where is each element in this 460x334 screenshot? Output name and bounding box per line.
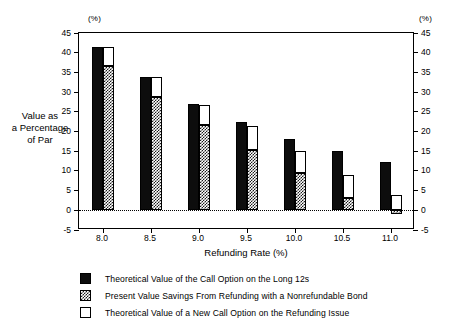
- y-tick-mark-left: [74, 111, 79, 112]
- x-axis-title: Refunding Rate (%): [78, 247, 414, 258]
- y-tick-label-right: 25: [421, 106, 430, 116]
- x-tick-label-8.5: 8.5: [130, 233, 170, 243]
- x-tick-label-8.0: 8.0: [82, 233, 122, 243]
- bar-new-call-option-9.0: [199, 105, 210, 125]
- y-tick-label-right: 5: [421, 185, 426, 195]
- bar-pv-savings-8.0: [103, 66, 114, 210]
- y-tick-label-left: 10: [62, 165, 71, 175]
- bar-new-call-option-11.0: [391, 195, 402, 211]
- y-tick-label-right: 45: [421, 28, 430, 38]
- y-tick-label-right: 10: [421, 165, 430, 175]
- y-tick-mark-right: [413, 111, 418, 112]
- y-tick-label-right: 30: [421, 87, 430, 97]
- checkered-swatch: [80, 290, 91, 301]
- bar-new-call-option-8.5: [151, 77, 162, 97]
- legend-label-1: Present Value Savings From Refunding wit…: [105, 291, 368, 301]
- y-tick-mark-left: [74, 52, 79, 53]
- y-tick-label-left: 40: [62, 47, 71, 57]
- plot-area: -5-5005510101515202025253030353540404545: [78, 32, 414, 229]
- y-tick-mark-left: [74, 151, 79, 152]
- y-tick-mark-right: [413, 92, 418, 93]
- bar-pv-savings-10.5: [343, 198, 354, 211]
- bar-pv-savings-9.0: [199, 125, 210, 210]
- zero-reference-line: [79, 210, 413, 211]
- y-tick-mark-right: [413, 190, 418, 191]
- bar-new-call-option-10.0: [295, 151, 306, 173]
- bar-call-option-9.5: [236, 122, 247, 210]
- legend-item-1: Present Value Savings From Refunding wit…: [80, 287, 420, 304]
- bar-call-option-8.5: [140, 77, 151, 210]
- bar-call-option-9.0: [188, 104, 199, 210]
- solid-black-swatch: [80, 273, 91, 284]
- y-tick-label-right: 20: [421, 126, 430, 136]
- y-tick-mark-right: [413, 72, 418, 73]
- y-tick-label-left: 5: [66, 185, 71, 195]
- bar-call-option-11.0: [380, 162, 391, 210]
- x-tick-label-9.5: 9.5: [226, 233, 266, 243]
- y-tick-mark-left: [74, 210, 79, 211]
- white-outline-swatch: [80, 307, 91, 318]
- plot-inner-surface: -5-5005510101515202025253030353540404545: [79, 33, 413, 228]
- legend-label-2: Theoretical Value of a New Call Option o…: [105, 308, 349, 318]
- y-tick-label-right: 0: [421, 205, 426, 215]
- y-tick-label-right: 15: [421, 146, 430, 156]
- y-tick-label-left: 30: [62, 87, 71, 97]
- bar-new-call-option-9.5: [247, 126, 258, 150]
- y-tick-mark-right: [413, 33, 418, 34]
- y-tick-label-left: 25: [62, 106, 71, 116]
- y-tick-mark-left: [74, 170, 79, 171]
- y-tick-label-left: 15: [62, 146, 71, 156]
- bar-pv-savings-11.0: [391, 210, 402, 214]
- y-tick-label-left: 20: [62, 126, 71, 136]
- y-tick-mark-right: [413, 151, 418, 152]
- bar-pv-savings-8.5: [151, 97, 162, 210]
- y-tick-mark-right: [413, 52, 418, 53]
- bar-pv-savings-9.5: [247, 150, 258, 210]
- legend-item-2: Theoretical Value of a New Call Option o…: [80, 304, 420, 321]
- y-tick-mark-right: [413, 170, 418, 171]
- bar-new-call-option-8.0: [103, 47, 114, 67]
- chart-legend: Theoretical Value of the Call Option on …: [80, 270, 420, 321]
- y-tick-label-right: 40: [421, 47, 430, 57]
- y-tick-mark-right: [413, 210, 418, 211]
- bar-pv-savings-10.0: [295, 173, 306, 210]
- y-tick-mark-right: [413, 131, 418, 132]
- y-tick-mark-left: [74, 190, 79, 191]
- x-tick-label-10.5: 10.5: [322, 233, 362, 243]
- legend-item-0: Theoretical Value of the Call Option on …: [80, 270, 420, 287]
- x-tick-label-10.0: 10.0: [274, 233, 314, 243]
- y-tick-label-left: 35: [62, 67, 71, 77]
- chart-figure: (%) (%) Value as a Percentage of Par -5-…: [0, 0, 460, 334]
- right-axis-unit-label: (%): [419, 14, 432, 23]
- y-tick-mark-left: [74, 72, 79, 73]
- y-tick-mark-left: [74, 131, 79, 132]
- y-tick-mark-left: [74, 92, 79, 93]
- bar-call-option-10.5: [332, 151, 343, 210]
- y-tick-label-right: 35: [421, 67, 430, 77]
- x-tick-label-9.0: 9.0: [178, 233, 218, 243]
- y-tick-label-right: -5: [421, 225, 429, 235]
- y-tick-mark-right: [413, 230, 418, 231]
- y-tick-mark-left: [74, 230, 79, 231]
- bar-new-call-option-10.5: [343, 175, 354, 198]
- y-tick-label-left: 0: [66, 205, 71, 215]
- bar-call-option-8.0: [92, 47, 103, 211]
- left-axis-unit-label: (%): [88, 14, 101, 23]
- y-tick-label-left: 45: [62, 28, 71, 38]
- bar-call-option-10.0: [284, 139, 295, 210]
- y-tick-label-left: -5: [63, 225, 71, 235]
- y-tick-mark-left: [74, 33, 79, 34]
- legend-label-0: Theoretical Value of the Call Option on …: [105, 274, 309, 284]
- x-tick-label-11.0: 11.0: [370, 233, 410, 243]
